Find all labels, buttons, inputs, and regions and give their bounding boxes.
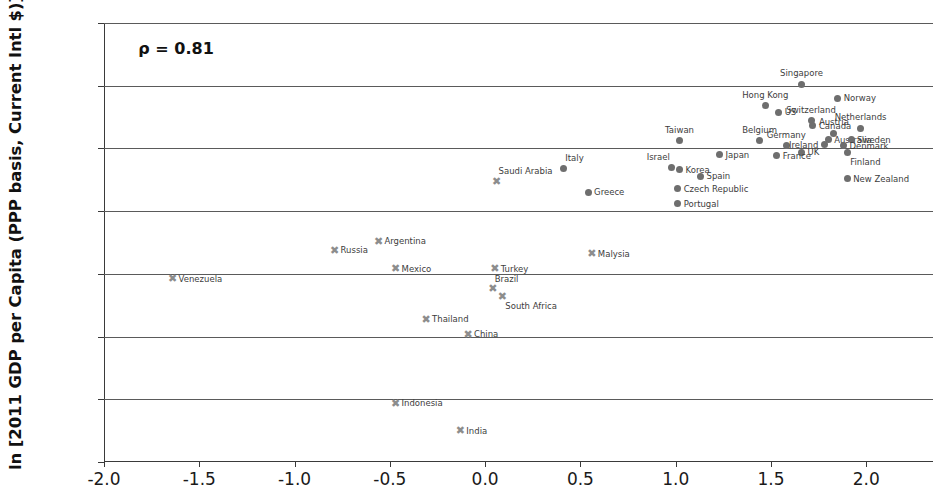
y-tick-mark	[98, 23, 104, 24]
data-point-label: Finland	[850, 158, 880, 167]
data-point-label: Indonesia	[402, 399, 443, 408]
circle-marker-icon	[809, 122, 816, 129]
data-point-label: Spain	[706, 172, 730, 181]
y-tick-mark	[98, 86, 104, 87]
cross-marker-icon: ✖	[456, 426, 465, 435]
y-tick-mark	[98, 337, 104, 338]
circle-marker-icon	[716, 151, 723, 158]
circle-marker-icon	[773, 152, 780, 159]
circle-marker-icon	[676, 166, 683, 173]
gridline-y	[104, 86, 933, 87]
circle-marker-icon	[844, 149, 851, 156]
data-point-label: Hong Kong	[742, 91, 788, 100]
x-tick-label: -0.5	[360, 471, 420, 488]
data-point-label: France	[783, 152, 811, 161]
circle-marker-icon	[674, 200, 681, 207]
data-point-label: Norway	[844, 94, 876, 103]
cross-marker-icon: ✖	[391, 399, 400, 408]
x-tick-mark	[104, 461, 105, 467]
data-point-label: Taiwan	[665, 126, 694, 135]
data-point-label: Denmark	[849, 142, 888, 151]
y-tick-mark	[98, 211, 104, 212]
gridline-y	[104, 274, 933, 275]
cross-marker-icon: ✖	[488, 284, 497, 293]
circle-marker-icon	[821, 141, 828, 148]
x-tick-mark	[199, 461, 200, 467]
data-point-label: China	[474, 330, 498, 339]
data-point-label: Argentina	[384, 237, 425, 246]
x-tick-mark	[485, 461, 486, 467]
data-point-label: Turkey	[501, 265, 529, 274]
x-tick-label: 1.0	[646, 471, 706, 488]
cross-marker-icon: ✖	[587, 249, 596, 258]
data-point-label: Austria	[819, 118, 849, 127]
cross-marker-icon: ✖	[498, 292, 507, 301]
data-point-label: Venezuela	[179, 275, 223, 284]
data-point-label: Germany	[767, 131, 806, 140]
circle-marker-icon	[834, 95, 841, 102]
circle-marker-icon	[560, 165, 567, 172]
x-tick-mark	[866, 461, 867, 467]
gridline-y	[104, 23, 933, 24]
correlation-annotation: ρ = 0.81	[138, 39, 213, 58]
y-axis-line	[104, 23, 105, 462]
x-tick-mark	[580, 461, 581, 467]
circle-marker-icon	[857, 125, 864, 132]
x-tick-label: 0.5	[550, 471, 610, 488]
data-point-label: Greece	[594, 188, 624, 197]
scatter-chart-figure: ln [2011 GDP per Capita (PPP basis, Curr…	[0, 0, 933, 503]
x-tick-label: 0.0	[455, 471, 515, 488]
cross-marker-icon: ✖	[330, 246, 339, 255]
x-tick-label: -1.5	[169, 471, 229, 488]
x-tick-label: -1.0	[265, 471, 325, 488]
x-tick-label: 1.5	[741, 471, 801, 488]
data-point-label: India	[466, 427, 487, 436]
data-point-label: Malysia	[598, 250, 630, 259]
data-point-label: Thailand	[432, 315, 469, 324]
y-tick-mark	[98, 274, 104, 275]
y-tick-mark	[98, 148, 104, 149]
data-point-label: South Africa	[505, 302, 557, 311]
data-point-label: Brazil	[495, 275, 519, 284]
cross-marker-icon: ✖	[374, 237, 383, 246]
data-point-label: Italy	[565, 154, 583, 163]
circle-marker-icon	[668, 164, 675, 171]
data-point-label: Portugal	[684, 200, 719, 209]
x-tick-mark	[295, 461, 296, 467]
circle-marker-icon	[674, 185, 681, 192]
x-tick-mark	[676, 461, 677, 467]
data-point-label: Russia	[341, 246, 368, 255]
circle-marker-icon	[775, 109, 782, 116]
data-point-label: New Zealand	[853, 175, 909, 184]
circle-marker-icon	[798, 81, 805, 88]
x-axis-line	[104, 461, 933, 462]
circle-marker-icon	[762, 102, 769, 109]
cross-marker-icon: ✖	[492, 177, 501, 186]
gridline-y	[104, 337, 933, 338]
cross-marker-icon: ✖	[391, 264, 400, 273]
data-point-label: Singapore	[780, 69, 823, 78]
circle-marker-icon	[844, 175, 851, 182]
circle-marker-icon	[697, 173, 704, 180]
x-tick-label: -2.0	[74, 471, 134, 488]
y-axis-title: ln [2011 GDP per Capita (PPP basis, Curr…	[6, 0, 32, 470]
circle-marker-icon	[585, 189, 592, 196]
plot-area: 8.08.59.09.510.010.511.011.5 -2.0-1.5-1.…	[104, 23, 933, 462]
circle-marker-icon	[756, 137, 763, 144]
x-tick-label: 2.0	[836, 471, 896, 488]
cross-marker-icon: ✖	[463, 330, 472, 339]
x-tick-mark	[390, 461, 391, 467]
cross-marker-icon: ✖	[490, 264, 499, 273]
data-point-label: Japan	[726, 151, 750, 160]
data-point-label: Switzerland	[786, 106, 836, 115]
circle-marker-icon	[676, 137, 683, 144]
cross-marker-icon: ✖	[168, 274, 177, 283]
data-point-label: Czech Republic	[684, 185, 749, 194]
gridline-y	[104, 399, 933, 400]
x-tick-mark	[771, 461, 772, 467]
data-point-label: Israel	[647, 153, 670, 162]
y-tick-mark	[98, 399, 104, 400]
gridline-y	[104, 211, 933, 212]
cross-marker-icon: ✖	[422, 315, 431, 324]
data-point-label: Mexico	[402, 265, 432, 274]
